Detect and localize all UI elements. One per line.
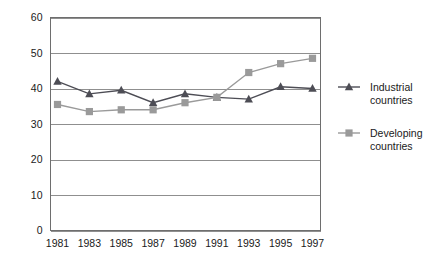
x-axis-tick-labels: 198119831985198719891991199319951997 <box>46 237 325 249</box>
line-chart: 0102030405060 19811983198519871989199119… <box>0 0 435 265</box>
legend-label-line1: Industrial <box>370 81 413 93</box>
legend-label-line2: countries <box>370 94 413 106</box>
y-tick-label: 10 <box>31 189 43 201</box>
legend-item-industrial[interactable]: Industrialcountries <box>338 81 413 106</box>
y-tick-label: 20 <box>31 153 43 165</box>
data-series-group <box>53 55 316 115</box>
data-point-triangle <box>181 89 189 97</box>
legend-label-line1: Developing <box>370 127 423 139</box>
legend-label-line2: countries <box>370 140 413 152</box>
y-tick-label: 30 <box>31 118 43 130</box>
x-tick-label: 1985 <box>110 237 134 249</box>
chart-legend: IndustrialcountriesDevelopingcountries <box>338 81 423 152</box>
data-point-square <box>181 99 188 106</box>
x-tick-label: 1997 <box>301 237 325 249</box>
x-tick-label: 1983 <box>78 237 102 249</box>
y-tick-label: 40 <box>31 82 43 94</box>
data-point-square <box>245 69 252 76</box>
data-point-square <box>118 106 125 113</box>
x-tick-label: 1995 <box>269 237 293 249</box>
chart-plot-area: 0102030405060 19811983198519871989199119… <box>0 0 435 265</box>
data-point-square <box>213 94 220 101</box>
x-tick-label: 1991 <box>205 237 229 249</box>
x-tick-label: 1989 <box>173 237 197 249</box>
x-tick-label: 1993 <box>237 237 261 249</box>
y-axis-tick-labels: 0102030405060 <box>31 11 43 236</box>
data-point-square <box>86 108 93 115</box>
data-point-triangle <box>276 82 284 90</box>
data-point-square <box>54 101 61 108</box>
y-tick-label: 60 <box>31 11 43 23</box>
legend-item-developing[interactable]: Developingcountries <box>338 127 423 152</box>
data-point-square <box>309 55 316 62</box>
square-marker-icon <box>345 129 352 136</box>
data-point-square <box>150 106 157 113</box>
series-developing-countries <box>54 55 316 115</box>
data-point-triangle <box>53 77 61 85</box>
y-tick-label: 50 <box>31 47 43 59</box>
x-tick-label: 1981 <box>46 237 70 249</box>
y-tick-label: 0 <box>37 224 43 236</box>
data-point-square <box>277 60 284 67</box>
gridlines-group <box>51 19 321 232</box>
x-tick-label: 1987 <box>141 237 165 249</box>
